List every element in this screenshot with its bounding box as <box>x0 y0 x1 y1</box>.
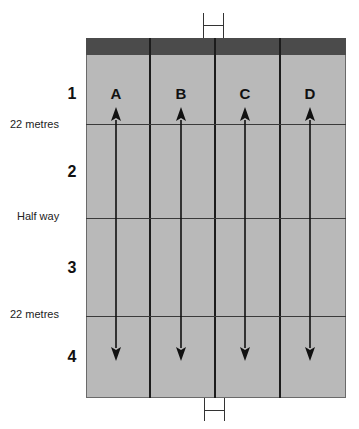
goal-posts-bottom-icon <box>205 398 225 421</box>
diagram-overlay <box>0 0 359 429</box>
goal-posts-top-icon <box>204 13 224 38</box>
double-arrow-icon-c <box>240 107 250 361</box>
double-arrow-icon-a <box>111 107 121 361</box>
double-arrow-icon-d <box>305 107 315 361</box>
double-arrow-icon-b <box>176 107 186 361</box>
